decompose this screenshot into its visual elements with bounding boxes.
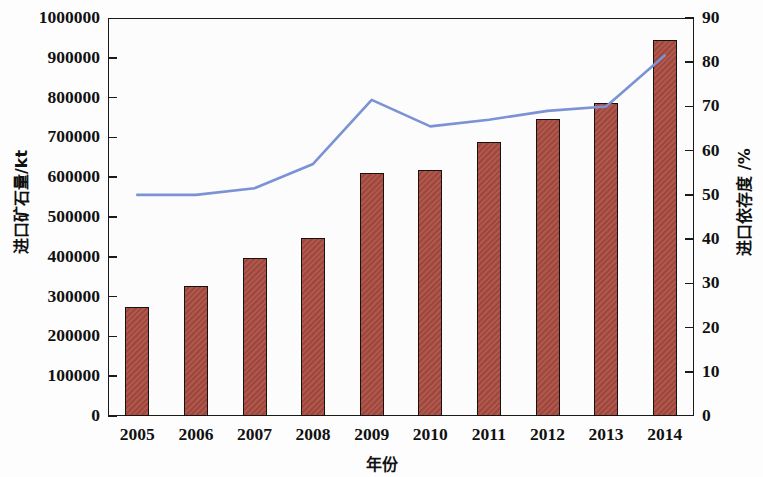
left-y-tick-mark — [108, 296, 117, 298]
right-y-tick-mark — [685, 283, 694, 285]
left-y-tick-label: 1000000 — [0, 9, 100, 27]
left-y-tick-label: 800000 — [0, 89, 100, 107]
right-y-tick-label: 60 — [702, 142, 720, 160]
x-tick-label: 2011 — [472, 424, 506, 445]
right-y-tick-mark — [685, 61, 694, 63]
bar — [536, 119, 560, 416]
left-y-tick-label: 900000 — [0, 49, 100, 67]
bar — [243, 258, 267, 416]
right-y-axis-title: 进口依存度 /% — [731, 122, 755, 282]
x-tick-label: 2007 — [237, 424, 272, 445]
x-tick-label: 2009 — [354, 424, 389, 445]
right-y-tick-label: 90 — [702, 9, 720, 27]
left-y-tick-mark — [108, 137, 117, 139]
left-y-tick-mark — [108, 336, 117, 338]
bar — [477, 142, 501, 416]
left-y-tick-mark — [108, 375, 117, 377]
right-y-tick-label: 70 — [702, 98, 720, 116]
left-y-tick-label: 200000 — [0, 328, 100, 346]
left-y-tick-mark — [108, 176, 117, 178]
right-y-tick-mark — [685, 17, 694, 19]
chart-container: 0100000200000300000400000500000600000700… — [0, 0, 763, 477]
x-tick-label: 2012 — [530, 424, 565, 445]
left-y-tick-label: 300000 — [0, 288, 100, 306]
x-tick-label: 2013 — [589, 424, 624, 445]
left-y-tick-mark — [108, 57, 117, 59]
right-y-tick-mark — [685, 327, 694, 329]
left-y-tick-mark — [108, 256, 117, 258]
right-y-tick-mark — [685, 150, 694, 152]
right-y-tick-label: 50 — [702, 186, 720, 204]
x-tick-label: 2006 — [178, 424, 213, 445]
bar — [360, 173, 384, 416]
bar — [125, 307, 149, 416]
bar — [184, 286, 208, 416]
x-axis-title: 年份 — [0, 451, 763, 475]
x-tick-label: 2008 — [296, 424, 331, 445]
right-y-tick-label: 10 — [702, 363, 720, 381]
bar — [418, 170, 442, 416]
left-y-tick-label: 0 — [0, 407, 100, 425]
left-y-tick-mark — [108, 415, 117, 417]
x-tick-label: 2005 — [120, 424, 155, 445]
right-y-tick-label: 40 — [702, 230, 720, 248]
x-tick-label: 2014 — [647, 424, 682, 445]
right-y-tick-mark — [685, 194, 694, 196]
left-y-tick-mark — [108, 97, 117, 99]
right-y-tick-mark — [685, 106, 694, 108]
right-y-tick-label: 80 — [702, 53, 720, 71]
right-y-tick-label: 30 — [702, 275, 720, 293]
left-y-axis-title: 进口矿石量/kt — [8, 122, 32, 282]
bar — [653, 40, 677, 416]
x-tick-label: 2010 — [413, 424, 448, 445]
right-y-tick-mark — [685, 371, 694, 373]
left-y-tick-mark — [108, 216, 117, 218]
right-y-tick-mark — [685, 238, 694, 240]
bar — [301, 238, 325, 416]
left-y-tick-label: 100000 — [0, 367, 100, 385]
bar — [594, 103, 618, 416]
right-y-tick-label: 0 — [702, 407, 711, 425]
right-y-tick-label: 20 — [702, 319, 720, 337]
